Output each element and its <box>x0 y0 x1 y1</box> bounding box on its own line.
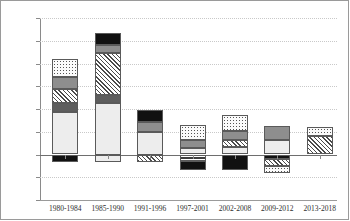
bar-segment-dotted <box>307 127 333 136</box>
bar-2002-2008[interactable] <box>222 18 248 200</box>
y-tick-mark <box>36 200 40 201</box>
x-tick-mark <box>277 155 278 159</box>
y-tick-mark <box>36 155 40 156</box>
plot-area: 6.05.04.03.02.01.00.0- 1.0- 2.0 1980-198… <box>40 18 337 200</box>
bar-segment-solid-black <box>95 33 121 46</box>
bar-segment-solid-black <box>137 110 163 121</box>
y-tick-mark <box>36 177 40 178</box>
bar-segment-diagonal-hatch <box>264 159 290 166</box>
bar-segment-light-gray <box>180 148 206 155</box>
gridline--2 <box>40 200 337 201</box>
bar-2013-2018[interactable] <box>307 18 333 200</box>
x-tick-mark <box>150 155 151 159</box>
bar-segment-dark-gray <box>52 103 78 112</box>
bar-segment-diagonal-hatch <box>222 140 248 147</box>
y-tick-mark <box>36 18 40 19</box>
bar-segment-light-gray <box>264 140 290 155</box>
bar-1991-1996[interactable] <box>137 18 163 200</box>
bar-1997-2001[interactable] <box>180 18 206 200</box>
bar-segment-medium-gray <box>52 77 78 88</box>
bar-segment-light-gray <box>222 147 248 155</box>
bar-2009-2012[interactable] <box>264 18 290 200</box>
bar-segment-light-gray <box>95 103 121 154</box>
bar-segment-dotted <box>264 166 290 173</box>
x-tick-mark <box>108 155 109 159</box>
x-tick-mark <box>193 155 194 159</box>
x-tick-mark <box>65 155 66 159</box>
bar-segment-dotted <box>180 125 206 140</box>
bar-segment-dotted <box>222 115 248 131</box>
bar-segment-medium-gray <box>95 45 121 53</box>
bar-segment-medium-gray <box>222 131 248 140</box>
x-tick-mark <box>235 155 236 159</box>
bar-1985-1990[interactable] <box>95 18 121 200</box>
y-tick-mark <box>36 109 40 110</box>
x-tick-mark <box>320 155 321 159</box>
bar-segment-diagonal-hatch <box>307 136 333 154</box>
bar-segment-dotted <box>52 59 78 77</box>
y-tick-mark <box>36 64 40 65</box>
bar-segment-medium-gray <box>180 140 206 148</box>
bar-segment-light-gray <box>52 112 78 154</box>
bar-1980-1984[interactable] <box>52 18 78 200</box>
x-axis-label-2013-2018: 2013-2018 <box>292 204 348 213</box>
y-tick-mark <box>36 132 40 133</box>
bar-segment-dark-gray <box>95 95 121 103</box>
bar-segment-diagonal-hatch <box>95 53 121 95</box>
bar-segment-diagonal-hatch <box>52 89 78 104</box>
chart-container: 6.05.04.03.02.01.00.0- 1.0- 2.0 1980-198… <box>0 0 350 221</box>
y-tick-mark <box>36 86 40 87</box>
y-tick-mark <box>36 41 40 42</box>
bar-segment-solid-black <box>180 161 206 170</box>
bar-segment-medium-gray <box>264 126 290 140</box>
bar-segment-light-gray <box>137 132 163 155</box>
bar-segment-medium-gray <box>137 122 163 132</box>
